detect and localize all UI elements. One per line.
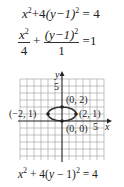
caption-rest: − 1)	[54, 168, 76, 180]
y-axis-arrow-icon	[60, 71, 65, 76]
y-axis-label: y	[54, 69, 60, 80]
caption-mid: + 4(	[27, 168, 49, 180]
graph-caption: x2 + 4(y − 1)2 = 4	[18, 166, 98, 180]
label-point-top: (0, 2)	[66, 94, 88, 106]
point-bottom	[60, 119, 64, 123]
x-tick-5: 5	[93, 121, 98, 132]
point-right	[74, 112, 78, 116]
point-top	[60, 105, 64, 109]
y-tick-5: 5	[54, 81, 59, 92]
caption-end: = 4	[80, 168, 98, 180]
point-left	[46, 112, 50, 116]
label-point-bottom: (0, 0)	[66, 123, 88, 135]
label-point-right: (2, 1)	[79, 108, 101, 120]
label-point-left: (−2, 1)	[9, 108, 36, 120]
x-axis-label: x	[104, 121, 110, 132]
ellipse-graph: y x 5 5 (0, 2) (−2, 1) (2, 1) (0, 0)	[0, 0, 124, 187]
